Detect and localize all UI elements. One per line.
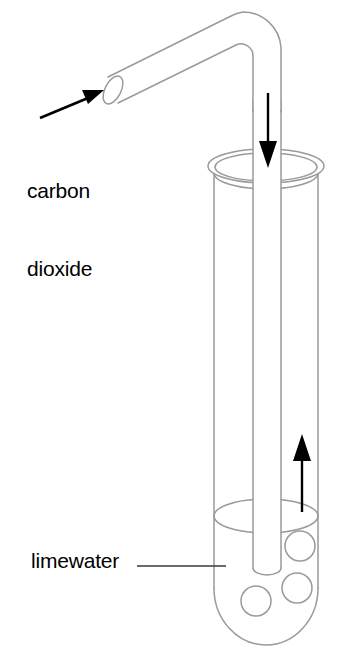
gas-bubble <box>285 531 315 561</box>
carbon-dioxide-arrow-shaft <box>40 98 88 118</box>
label-limewater: limewater <box>31 548 119 574</box>
label-carbon-dioxide: carbon dioxide <box>27 126 92 334</box>
gas-bubble <box>282 573 312 603</box>
diagram-root: carbon dioxide limewater <box>0 0 353 663</box>
label-carbon-dioxide-line1: carbon <box>27 178 92 204</box>
delivery-tube-bend <box>99 12 281 112</box>
label-carbon-dioxide-line2: dioxide <box>27 256 92 282</box>
delivery-tube-vertical-fill <box>253 100 281 568</box>
delivery-tube-bend-fill <box>117 20 281 110</box>
gas-bubble <box>241 586 271 616</box>
carbon-dioxide-pointer-arrow <box>40 90 104 118</box>
carbon-dioxide-arrow-head <box>82 90 104 104</box>
delivery-tube-vertical <box>253 100 281 575</box>
